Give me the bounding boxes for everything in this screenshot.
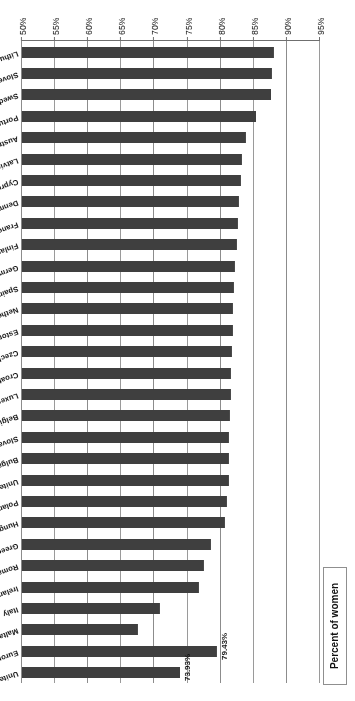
bar-row	[0, 644, 355, 658]
axis-tick-label: 55%	[51, 0, 61, 35]
bar-row	[0, 409, 355, 423]
bar-row	[0, 387, 355, 401]
bar-row	[0, 280, 355, 294]
bar-row	[0, 195, 355, 209]
axis-tick	[87, 37, 88, 41]
axis-tick-label: 95%	[316, 0, 326, 35]
bar[interactable]	[22, 560, 204, 571]
bar-row	[0, 323, 355, 337]
bar[interactable]	[22, 175, 241, 186]
bar-row	[0, 665, 355, 679]
bar-row	[0, 473, 355, 487]
bar-row	[0, 45, 355, 59]
bar[interactable]	[22, 218, 238, 229]
bar-row	[0, 302, 355, 316]
bar-row	[0, 344, 355, 358]
bar-row	[0, 259, 355, 273]
bar[interactable]	[22, 68, 272, 79]
bar-row	[0, 537, 355, 551]
bar[interactable]	[22, 325, 233, 336]
bar[interactable]	[22, 90, 271, 101]
data-label: 79.43%	[220, 633, 229, 660]
axis-tick-label: 50%	[18, 0, 28, 35]
bar[interactable]	[22, 667, 180, 678]
bar[interactable]	[22, 539, 211, 550]
axis-tick-label: 90%	[283, 0, 293, 35]
axis-tick	[120, 37, 121, 41]
axis-tick	[187, 37, 188, 41]
axis-tick-label: 70%	[150, 0, 160, 35]
bar-row	[0, 516, 355, 530]
axis-tick	[21, 37, 22, 41]
bar-row	[0, 494, 355, 508]
chart-figure: Percent of women 95%90%85%80%75%70%65%60…	[0, 0, 355, 701]
axis-tick	[153, 37, 154, 41]
axis-tick	[54, 37, 55, 41]
bar-row	[0, 366, 355, 380]
bar-row	[0, 601, 355, 615]
bar-row	[0, 152, 355, 166]
bar[interactable]	[22, 197, 239, 208]
bar-row	[0, 173, 355, 187]
bar[interactable]	[22, 368, 231, 379]
bar-row	[0, 623, 355, 637]
axis-tick	[253, 37, 254, 41]
bar[interactable]	[22, 475, 229, 486]
bar[interactable]	[22, 132, 246, 143]
bar[interactable]	[22, 603, 160, 614]
axis-tick	[319, 37, 320, 41]
bar[interactable]	[22, 154, 242, 165]
bar[interactable]	[22, 453, 229, 464]
axis-tick-label: 60%	[84, 0, 94, 35]
bar[interactable]	[22, 389, 231, 400]
bar[interactable]	[22, 432, 229, 443]
bar-row	[0, 558, 355, 572]
bar[interactable]	[22, 239, 237, 250]
bar-row	[0, 451, 355, 465]
axis-tick-label: 65%	[117, 0, 127, 35]
bar-chart: Percent of women 95%90%85%80%75%70%65%60…	[0, 0, 355, 701]
bar[interactable]	[22, 496, 227, 507]
axis-tick	[220, 37, 221, 41]
axis-tick-label: 75%	[184, 0, 194, 35]
bar-row	[0, 66, 355, 80]
bar[interactable]	[22, 47, 274, 58]
bar-row	[0, 109, 355, 123]
bar[interactable]	[22, 261, 235, 272]
axis-tick-label: 80%	[217, 0, 227, 35]
bar-row	[0, 88, 355, 102]
bar-row	[0, 430, 355, 444]
bar-row	[0, 130, 355, 144]
bar-row	[0, 216, 355, 230]
bar[interactable]	[22, 518, 225, 529]
data-label: 73.93%	[183, 654, 192, 681]
bar[interactable]	[22, 582, 199, 593]
bar-row	[0, 237, 355, 251]
value-axis-line	[22, 40, 320, 41]
bar[interactable]	[22, 282, 234, 293]
bar[interactable]	[22, 304, 233, 315]
bar-row	[0, 580, 355, 594]
bar[interactable]	[22, 346, 232, 357]
bar[interactable]	[22, 111, 256, 122]
bar[interactable]	[22, 625, 138, 636]
bar[interactable]	[22, 411, 230, 422]
axis-tick	[286, 37, 287, 41]
axis-tick-label: 85%	[250, 0, 260, 35]
